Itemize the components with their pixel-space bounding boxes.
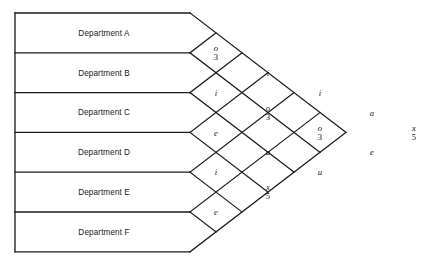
relationship-chart: Department A Department B Department C D… (0, 0, 448, 264)
relationship-chart-lines (0, 0, 448, 264)
